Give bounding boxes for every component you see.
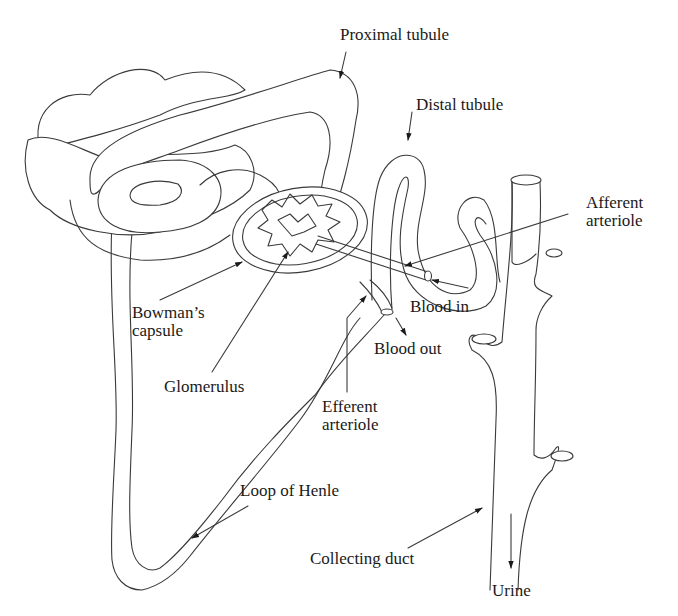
label-urine: Urine bbox=[492, 582, 531, 600]
nephron-drawing bbox=[0, 0, 678, 616]
label-blood-in: Blood in bbox=[410, 298, 469, 316]
label-bowmans-capsule: Bowman’s capsule bbox=[132, 304, 205, 340]
nephron-diagram: Proximal tubule Distal tubule Afferent a… bbox=[0, 0, 678, 616]
label-afferent-arteriole: Afferent arteriole bbox=[586, 194, 643, 230]
label-collecting-duct: Collecting duct bbox=[310, 550, 414, 568]
bowmans-capsule-shape bbox=[226, 177, 375, 283]
label-loop-of-henle: Loop of Henle bbox=[240, 482, 339, 500]
label-blood-out: Blood out bbox=[374, 340, 442, 358]
collecting-duct-shape bbox=[469, 175, 573, 590]
label-proximal-tubule: Proximal tubule bbox=[340, 26, 449, 44]
label-glomerulus: Glomerulus bbox=[164, 378, 244, 396]
label-distal-tubule: Distal tubule bbox=[416, 96, 503, 114]
distal-tubule-shape bbox=[371, 155, 500, 311]
label-efferent-arteriole: Efferent arteriole bbox=[322, 398, 379, 434]
